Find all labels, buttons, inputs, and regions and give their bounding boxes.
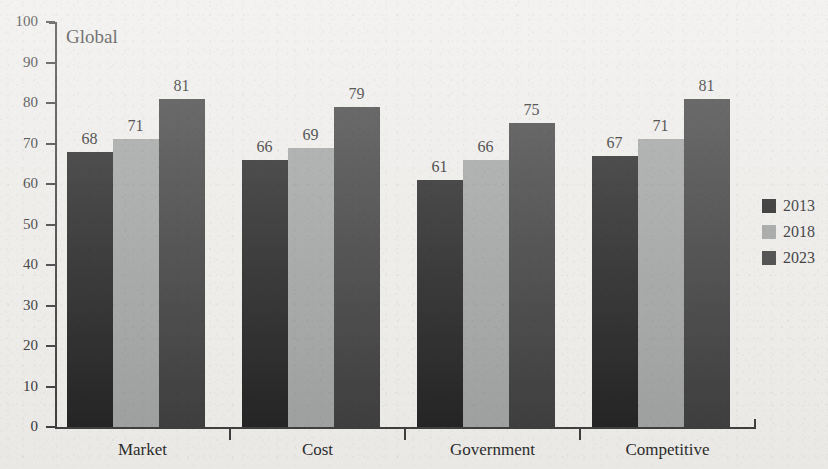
y-axis-tick-label: 90 [0, 55, 38, 70]
plot-label-global: Global [66, 27, 118, 46]
x-axis-category-label: Market [55, 441, 230, 458]
y-axis-tick [46, 386, 55, 388]
bar-chart: 1009080706050403020100 Global 6871816669… [0, 0, 828, 469]
bar-value-label: 66 [463, 139, 509, 155]
y-axis-tick-label: 0 [0, 419, 38, 434]
bar [242, 160, 288, 427]
bar-value-label: 69 [288, 127, 334, 143]
bar-value-label: 81 [684, 78, 730, 94]
bar-value-label: 81 [159, 78, 205, 94]
legend-swatch-icon [762, 251, 776, 265]
bar [592, 156, 638, 427]
x-axis-category-label: Government [405, 441, 580, 458]
bar [509, 123, 555, 427]
y-axis-tick [46, 264, 55, 266]
y-axis-tick [46, 62, 55, 64]
bar-value-label: 71 [113, 118, 159, 134]
x-axis-end-tick [754, 419, 756, 429]
y-axis-tick [46, 102, 55, 104]
y-axis-tick [46, 345, 55, 347]
bar-value-label: 67 [592, 135, 638, 151]
y-axis-tick [46, 305, 55, 307]
bar [67, 152, 113, 427]
bar-value-label: 66 [242, 139, 288, 155]
legend-item: 2013 [762, 193, 815, 219]
bar-value-label: 75 [509, 102, 555, 118]
x-axis-tick [229, 429, 231, 440]
legend-swatch-icon [762, 199, 776, 213]
y-axis-tick-label: 60 [0, 176, 38, 191]
bar [638, 139, 684, 427]
y-axis-tick [46, 426, 55, 428]
y-axis-tick-label: 70 [0, 136, 38, 151]
x-axis-tick [404, 429, 406, 440]
bar [159, 99, 205, 427]
bar [463, 160, 509, 427]
legend-item: 2018 [762, 219, 815, 245]
y-axis-tick-label: 20 [0, 338, 38, 353]
legend-item: 2023 [762, 245, 815, 271]
y-axis-tick-label: 30 [0, 298, 38, 313]
chart-legend: 201320182023 [762, 193, 815, 271]
bar-value-label: 61 [417, 159, 463, 175]
x-axis-category-label: Cost [230, 441, 405, 458]
y-axis-tick-label: 100 [0, 14, 38, 29]
x-axis-category-label: Competitive [580, 441, 755, 458]
legend-item-label: 2023 [783, 250, 815, 266]
y-axis-line [55, 22, 57, 429]
bar [684, 99, 730, 427]
legend-item-label: 2018 [783, 224, 815, 240]
y-axis-tick [46, 183, 55, 185]
y-axis-tick [46, 21, 55, 23]
x-axis-tick [579, 429, 581, 440]
y-axis-tick-label: 50 [0, 217, 38, 232]
y-axis-tick-label: 40 [0, 257, 38, 272]
y-axis-tick [46, 143, 55, 145]
y-axis-tick-label: 10 [0, 379, 38, 394]
bar [288, 148, 334, 427]
bar [334, 107, 380, 427]
y-axis-tick-label: 80 [0, 95, 38, 110]
bar [417, 180, 463, 427]
bar-value-label: 68 [67, 131, 113, 147]
bar [113, 139, 159, 427]
legend-swatch-icon [762, 225, 776, 239]
bar-value-label: 79 [334, 86, 380, 102]
y-axis-tick [46, 224, 55, 226]
legend-item-label: 2013 [783, 198, 815, 214]
bar-value-label: 71 [638, 118, 684, 134]
